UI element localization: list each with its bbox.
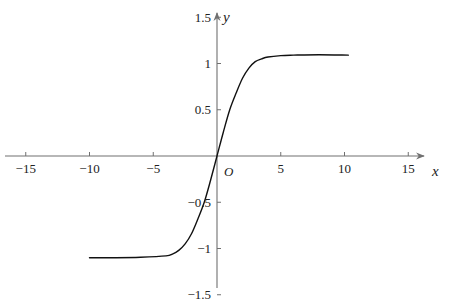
axes (5, 13, 424, 288)
x-axis-label: x (431, 163, 439, 179)
y-tick-label: 0.5 (195, 102, 211, 117)
origin-label: O (224, 164, 234, 179)
y-tick-label: −1 (197, 241, 211, 256)
y-tick-label: −1.5 (187, 287, 211, 302)
x-tick-label: −5 (146, 161, 160, 176)
y-tick-label: 1.5 (195, 10, 211, 25)
x-tick-label: 5 (278, 161, 285, 176)
x-tick-label: 15 (402, 161, 415, 176)
x-tick-label: 10 (338, 161, 351, 176)
y-tick-label: −0.5 (187, 195, 211, 210)
x-tick-label: −15 (16, 161, 36, 176)
x-tick-label: −10 (79, 161, 99, 176)
y-tick-label: 1 (205, 56, 212, 71)
y-axis-label: y (221, 9, 230, 25)
function-plot: −15−10−5510151.510.5−0.5−1−1.5 x y O (0, 0, 449, 305)
